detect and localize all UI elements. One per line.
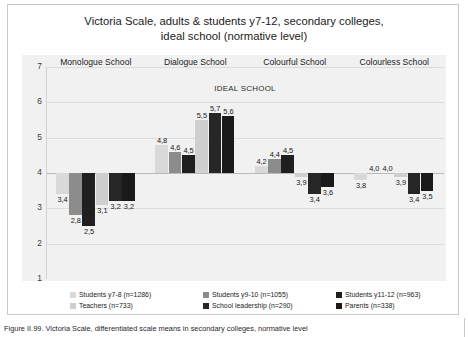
legend-swatch-icon	[203, 303, 209, 309]
bar-value-label: 3,8	[351, 181, 370, 190]
legend-swatch-icon	[336, 303, 342, 309]
bar	[96, 173, 109, 205]
legend-item-3: Students y11-12 (n=963)	[336, 290, 421, 300]
bar	[295, 173, 308, 177]
bar	[268, 159, 281, 173]
bar	[69, 173, 82, 215]
legend-item-6: Parents (n=338)	[336, 301, 395, 311]
y-axis-tick-1: 1	[24, 273, 42, 283]
bar	[82, 173, 95, 226]
category-label-1: Monologue School	[46, 57, 146, 67]
bar	[255, 166, 268, 173]
bar-value-label: 3,6	[318, 188, 337, 197]
category-label-4: Colourless School	[345, 57, 445, 67]
legend-label: School leadership (n=290)	[212, 302, 293, 309]
bar	[56, 173, 69, 194]
legend-swatch-icon	[70, 303, 76, 309]
bar	[182, 155, 195, 173]
legend-label: Teachers (n=733)	[79, 302, 133, 309]
bar-value-label: 4,0	[378, 164, 397, 173]
bar-value-label: 4,5	[278, 146, 297, 155]
chart-title-line-1: Victoria Scale, adults & students y7-12,…	[84, 15, 383, 27]
figure-caption: Figure II.99. Victoria Scale, differenti…	[4, 324, 464, 333]
chart-card: Victoria Scale, adults & students y7-12,…	[7, 4, 459, 315]
bar	[222, 116, 235, 173]
legend-item-5: School leadership (n=290)	[203, 301, 293, 311]
bar-value-label: 3,5	[418, 192, 437, 201]
bar	[122, 173, 135, 201]
legend-swatch-icon	[203, 292, 209, 298]
bar	[109, 173, 122, 201]
chart-legend: Students y7-8 (n=1286)Students y9-10 (n=…	[70, 290, 460, 314]
page-rule	[464, 318, 465, 337]
y-axis-tick-4: 4	[24, 167, 42, 177]
y-axis-tick-2: 2	[24, 238, 42, 248]
chart-title-line-2: ideal school (normative level)	[8, 29, 460, 44]
category-label-3: Colourful School	[245, 57, 345, 67]
bar-value-label: 3,2	[119, 202, 138, 211]
legend-label: Students y7-8 (n=1286)	[79, 291, 151, 298]
bar	[394, 173, 407, 177]
chart-title: Victoria Scale, adults & students y7-12,…	[8, 14, 460, 44]
bar-value-label: 5,6	[219, 107, 238, 116]
bar	[281, 155, 294, 173]
legend-swatch-icon	[70, 292, 76, 298]
legend-item-2: Students y9-10 (n=1055)	[203, 290, 288, 300]
legend-swatch-icon	[336, 292, 342, 298]
figure-container: Victoria Scale, adults & students y7-12,…	[0, 0, 468, 337]
bar	[321, 173, 334, 187]
bar	[354, 173, 367, 180]
bar	[209, 113, 222, 173]
bar-value-label: 2,5	[79, 227, 98, 236]
y-axis-tick-6: 6	[24, 96, 42, 106]
y-axis-tick-7: 7	[24, 61, 42, 71]
legend-label: Students y11-12 (n=963)	[345, 291, 421, 298]
category-label-2: Dialogue School	[146, 57, 246, 67]
legend-label: Students y9-10 (n=1055)	[212, 291, 288, 298]
y-axis-tick-3: 3	[24, 202, 42, 212]
legend-item-1: Students y7-8 (n=1286)	[70, 290, 151, 300]
plot-area: 3,42,82,53,13,23,24,84,64,55,55,75,64,24…	[46, 67, 444, 279]
y-axis-tick-5: 5	[24, 132, 42, 142]
legend-item-4: Teachers (n=733)	[70, 301, 133, 311]
bar	[421, 173, 434, 191]
legend-label: Parents (n=338)	[345, 302, 395, 309]
bar	[195, 120, 208, 173]
